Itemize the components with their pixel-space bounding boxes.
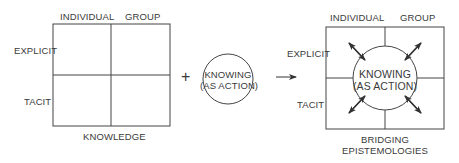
caption-bridging: BRIDGING xyxy=(345,134,425,145)
col-label-group: GROUP xyxy=(125,11,160,22)
row-label-explicit: EXPLICIT xyxy=(14,45,57,56)
right-col-label-group: GROUP xyxy=(400,12,435,23)
col-label-individual: INDIVIDUAL xyxy=(60,11,114,22)
plus-sign: + xyxy=(181,68,190,86)
right-row-label-tacit: TACIT xyxy=(297,99,324,110)
right-circle-text-as-action: (AS ACTION) xyxy=(350,80,420,92)
circle-text-as-action: (AS ACTION) xyxy=(200,80,256,91)
caption-knowledge: KNOWLEDGE xyxy=(83,131,146,142)
circle-text-knowing: KNOWING xyxy=(203,69,253,80)
row-label-tacit: TACIT xyxy=(24,96,51,107)
right-col-label-individual: INDIVIDUAL xyxy=(330,12,384,23)
right-row-label-explicit: EXPLICIT xyxy=(287,48,330,59)
knowledge-grid xyxy=(53,24,170,126)
caption-epistemologies: EPISTEMOLOGIES xyxy=(340,145,430,156)
right-circle-text-knowing: KNOWING xyxy=(355,68,415,80)
